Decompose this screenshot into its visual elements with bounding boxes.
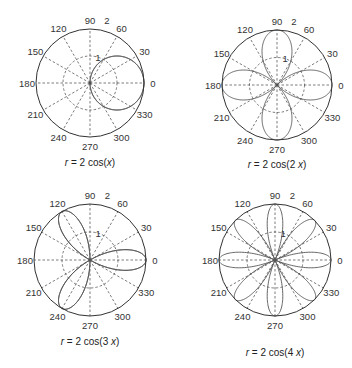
- polar-curve: [219, 204, 331, 316]
- theta-tick-label: 300: [114, 132, 130, 143]
- theta-tick-label: 150: [211, 222, 227, 233]
- theta-tick-label: 60: [116, 23, 127, 34]
- radial-tick-label: 2: [291, 16, 296, 27]
- theta-tick-label: 210: [27, 109, 43, 120]
- caption-part: ): [116, 336, 119, 347]
- grid-spoke: [90, 212, 118, 260]
- radial-tick-label: 2: [105, 190, 110, 201]
- caption-part: ): [301, 347, 304, 358]
- theta-tick-label: 90: [270, 190, 281, 201]
- polar-plot-3: 030609012015018021024027030033012r = 2 c…: [17, 190, 158, 348]
- radial-tick-label: 2: [290, 190, 295, 201]
- theta-tick-label: 90: [272, 16, 283, 27]
- caption-part: = 2 cos(: [68, 157, 107, 168]
- polar-plots-figure: 030609012015018021024027030033012r = 2 c…: [0, 0, 352, 368]
- theta-tick-label: 30: [139, 46, 150, 57]
- theta-tick-label: 330: [324, 112, 340, 123]
- caption-part: ): [112, 157, 115, 168]
- theta-tick-label: 30: [141, 222, 152, 233]
- radial-tick-label: 1: [95, 52, 100, 63]
- theta-tick-label: 0: [337, 255, 342, 266]
- theta-tick-label: 270: [82, 141, 98, 152]
- theta-tick-label: 0: [150, 78, 155, 89]
- theta-tick-label: 210: [26, 287, 42, 298]
- theta-tick-label: 30: [327, 48, 338, 59]
- grid-spoke: [43, 56, 90, 83]
- theta-tick-label: 90: [85, 15, 96, 26]
- grid-spoke: [62, 260, 90, 308]
- caption-part: = 2 cos(3: [64, 336, 111, 347]
- caption-part: = 2 cos(4: [249, 347, 296, 358]
- theta-tick-label: 270: [267, 320, 283, 331]
- theta-tick-label: 120: [237, 24, 253, 35]
- theta-tick-label: 300: [300, 311, 316, 322]
- theta-tick-label: 330: [323, 287, 339, 298]
- radial-tick-label: 1: [282, 53, 287, 64]
- theta-tick-label: 270: [82, 320, 98, 331]
- theta-tick-label: 90: [85, 190, 96, 201]
- theta-tick-label: 210: [214, 112, 230, 123]
- radial-tick-label: 1: [96, 228, 101, 239]
- grid-spoke: [63, 83, 90, 130]
- theta-tick-label: 240: [50, 311, 66, 322]
- theta-tick-label: 240: [237, 135, 253, 146]
- grid-spoke: [43, 83, 90, 110]
- theta-tick-label: 180: [19, 78, 35, 89]
- grid-spoke: [63, 36, 90, 83]
- theta-tick-label: 240: [51, 132, 67, 143]
- theta-tick-label: 150: [214, 48, 230, 59]
- theta-tick-label: 60: [302, 198, 313, 209]
- caption-part: ): [303, 159, 306, 170]
- theta-tick-label: 330: [138, 287, 154, 298]
- theta-tick-label: 60: [304, 24, 315, 35]
- grid-spoke: [62, 212, 90, 260]
- plot-caption: r = 2 cos(x): [65, 157, 115, 168]
- radial-tick-label: 2: [104, 15, 109, 26]
- caption-part: = 2 cos(2: [251, 159, 298, 170]
- theta-tick-label: 120: [235, 198, 251, 209]
- polar-plot-2: 030609012015018021024027030033012r = 2 c…: [205, 16, 344, 171]
- theta-tick-label: 210: [211, 287, 227, 298]
- theta-tick-label: 60: [117, 198, 128, 209]
- theta-tick-label: 30: [326, 222, 337, 233]
- theta-tick-label: 180: [17, 255, 33, 266]
- theta-tick-label: 120: [50, 198, 66, 209]
- theta-tick-label: 150: [27, 46, 43, 57]
- theta-tick-label: 180: [205, 80, 221, 91]
- plot-caption: r = 2 cos(3 x): [61, 336, 120, 347]
- theta-tick-label: 150: [26, 222, 42, 233]
- plot-caption: r = 2 cos(4 x): [246, 347, 305, 358]
- radial-tick-label: 1: [281, 228, 286, 239]
- plot-caption: r = 2 cos(2 x): [248, 159, 307, 170]
- theta-tick-label: 330: [137, 109, 153, 120]
- theta-tick-label: 270: [269, 144, 285, 155]
- theta-tick-label: 120: [51, 23, 67, 34]
- theta-tick-label: 0: [152, 255, 157, 266]
- polar-plot-4: 030609012015018021024027030033012r = 2 c…: [202, 190, 343, 359]
- theta-tick-label: 300: [115, 311, 131, 322]
- grid-spoke: [90, 260, 118, 308]
- theta-tick-label: 300: [301, 135, 317, 146]
- grid-spoke: [90, 83, 137, 110]
- theta-tick-label: 0: [338, 80, 343, 91]
- polar-plot-1: 030609012015018021024027030033012r = 2 c…: [19, 15, 156, 169]
- theta-tick-label: 240: [235, 311, 251, 322]
- theta-tick-label: 180: [202, 255, 218, 266]
